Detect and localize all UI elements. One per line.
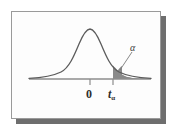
critical-value-subscript: α xyxy=(111,94,115,102)
axis-label-critical-value: tα xyxy=(108,88,115,100)
axis-label-origin: 0 xyxy=(86,88,92,100)
figure-root: 0 tα α xyxy=(0,0,175,129)
density-curve xyxy=(29,29,151,78)
t-distribution-plot xyxy=(12,12,162,120)
tail-area-alpha-label: α xyxy=(130,43,135,53)
alpha-leader-line xyxy=(120,52,132,70)
chart-panel: 0 tα α xyxy=(11,11,161,119)
